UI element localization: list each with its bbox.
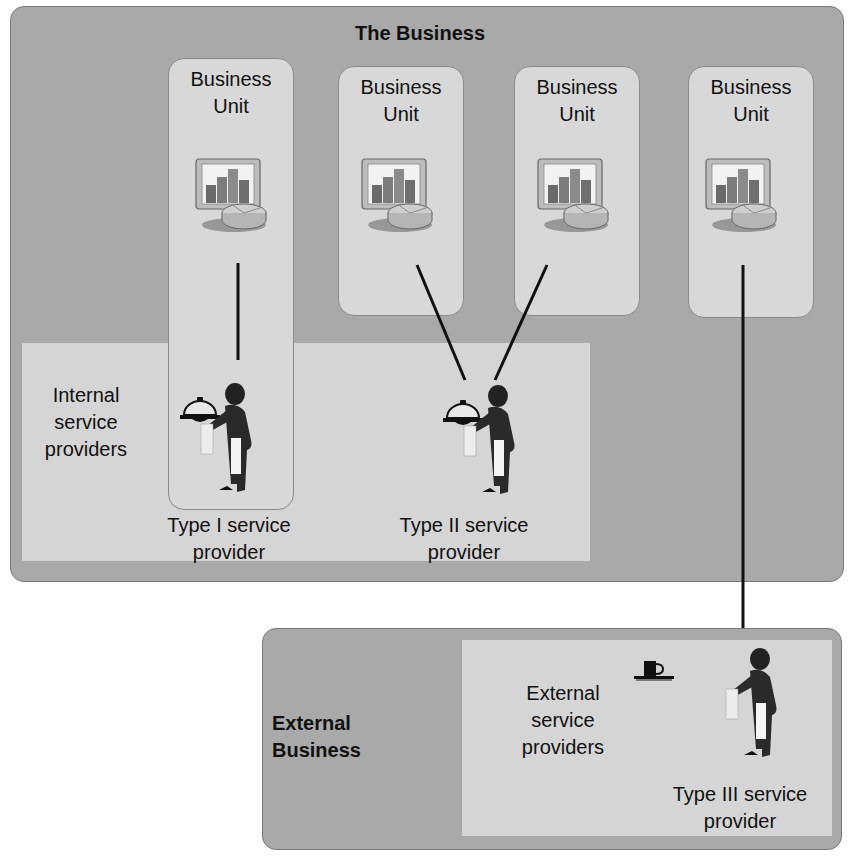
type-3-provider-label: Type III service provider: [640, 781, 840, 835]
internal-service-providers-label: Internal service providers: [36, 382, 136, 463]
type-1-provider-label: Type I service provider: [134, 512, 324, 566]
waiter-figure-icon: [438, 382, 523, 502]
waiter-figure-icon: [700, 645, 785, 765]
external-business-title: External Business: [272, 710, 361, 764]
waiter-cup-icon: [634, 657, 674, 687]
type-2-provider-label: Type II service provider: [366, 512, 562, 566]
external-service-providers-label: External service providers: [468, 680, 658, 761]
waiter-figure-icon: [175, 380, 260, 500]
